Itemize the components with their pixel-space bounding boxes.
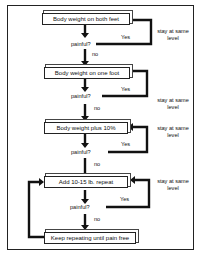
decision-painful: painful?: [71, 93, 91, 100]
side-note-line: stay at same: [153, 28, 193, 35]
step-box-one-foot: Body weight on one foot: [44, 67, 130, 79]
side-note-line: level: [153, 35, 193, 42]
side-note-line: stay at same: [153, 97, 193, 104]
side-note: stay at same level: [153, 178, 193, 192]
side-note-line: level: [153, 185, 193, 192]
decision-painful: painful?: [70, 204, 90, 211]
side-note-line: level: [153, 132, 193, 139]
side-note-line: stay at same: [153, 125, 193, 132]
no-label: no: [92, 51, 98, 58]
side-note: stay at same level: [153, 28, 193, 42]
yes-label: Yes: [121, 86, 130, 93]
side-note: stay at same level: [153, 97, 193, 111]
decision-painful: painful?: [71, 149, 91, 156]
yes-label: Yes: [120, 196, 129, 203]
yes-label: Yes: [121, 141, 130, 148]
no-label: no: [94, 161, 100, 168]
no-label: no: [94, 105, 100, 112]
decision-painful: painful?: [71, 41, 91, 48]
side-note: stay at same level: [153, 125, 193, 139]
step-box-plus-10: Body weight plus 10%: [44, 122, 128, 134]
no-label: no: [94, 216, 100, 223]
side-note-line: level: [153, 104, 193, 111]
step-box-add-weight: Add 10-15 lb. repeat: [44, 176, 128, 188]
side-note-line: stay at same: [153, 178, 193, 185]
step-box-both-feet: Body weight on both feet: [42, 13, 130, 25]
yes-label: Yes: [121, 34, 130, 41]
step-box-keep-repeating: Keep repeating until pain free: [44, 232, 136, 244]
